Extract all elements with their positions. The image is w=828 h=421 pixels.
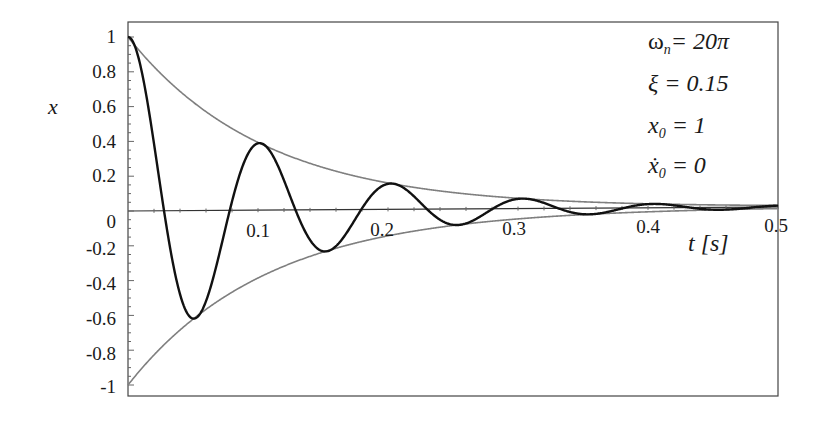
y-tick-label: 0.2 bbox=[66, 165, 116, 187]
y-tick-label: -0.6 bbox=[66, 308, 116, 330]
xdot0-subscript: 0 bbox=[659, 166, 666, 181]
x0-subscript: 0 bbox=[659, 126, 666, 141]
y-tick-label: 0.4 bbox=[66, 131, 116, 153]
y-tick-label: -1 bbox=[66, 376, 116, 398]
x-tick-label: 0.5 bbox=[756, 215, 796, 237]
x-tick-label: 0.3 bbox=[494, 218, 534, 240]
x-tick-label: 0.1 bbox=[238, 220, 278, 242]
y-tick-label: 0 bbox=[66, 211, 116, 233]
x-tick-label: 0.2 bbox=[362, 219, 402, 241]
omega-subscript: n bbox=[664, 42, 671, 57]
y-tick-label: -0.8 bbox=[66, 343, 116, 365]
chart-canvas bbox=[0, 0, 828, 421]
y-axis-title: x bbox=[48, 94, 58, 120]
x-tick-label: 0.4 bbox=[628, 216, 668, 238]
xdot0-symbol: ẋ bbox=[648, 152, 659, 178]
omega-value: = 20π bbox=[671, 28, 729, 54]
y-tick-label: 0.8 bbox=[66, 61, 116, 83]
lower-envelope-line bbox=[128, 209, 778, 385]
y-tick-label: 0.6 bbox=[66, 96, 116, 118]
xdot0-value: = 0 bbox=[666, 152, 706, 178]
y-tick-label: 1 bbox=[66, 26, 116, 48]
y-tick-label: -0.4 bbox=[66, 273, 116, 295]
annotation-omega: ωn= 20π bbox=[648, 28, 729, 58]
omega-symbol: ω bbox=[648, 28, 664, 54]
x0-symbol: x bbox=[648, 112, 659, 138]
annotation-xi: ξ = 0.15 bbox=[648, 70, 728, 97]
annotation-xdot0: ẋ0 = 0 bbox=[648, 152, 706, 182]
annotation-x0: x0 = 1 bbox=[648, 112, 706, 142]
x0-value: = 1 bbox=[666, 112, 706, 138]
y-tick-marks bbox=[128, 37, 134, 385]
y-tick-label: -0.2 bbox=[66, 238, 116, 260]
x-axis-title: t [s] bbox=[688, 230, 729, 257]
